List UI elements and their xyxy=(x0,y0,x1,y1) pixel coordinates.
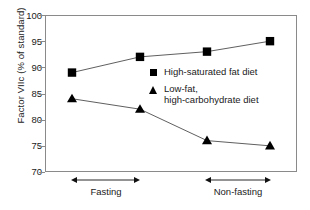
group-span-arrowhead xyxy=(265,177,271,183)
legend-item-label: High-saturated fat diet xyxy=(160,66,257,78)
data-point-square xyxy=(68,68,76,76)
square-marker-icon xyxy=(146,66,160,76)
data-point-square xyxy=(136,53,144,61)
legend-item-label-line1: Low-fat, xyxy=(164,83,198,94)
data-point-square xyxy=(203,47,211,55)
group-span-arrowhead xyxy=(134,177,140,183)
data-point-square xyxy=(266,37,274,45)
group-label-fasting: Fasting xyxy=(61,186,151,197)
chart-legend: High-saturated fat diet Low-fat,high-car… xyxy=(146,66,259,111)
legend-item-label: Low-fat,high-carbohydrate diet xyxy=(160,83,259,106)
legend-item-label-line1: High-saturated fat diet xyxy=(164,66,257,77)
legend-item: Low-fat,high-carbohydrate diet xyxy=(146,83,259,106)
legend-item-label-line2: high-carbohydrate diet xyxy=(164,94,259,105)
triangle-marker-icon xyxy=(146,83,160,94)
figure-caption-clipped xyxy=(8,205,302,210)
group-arrows xyxy=(71,177,271,183)
data-point-triangle xyxy=(67,94,77,103)
chart-figure: Factor VIIc (% of standard) 100 95 90 85… xyxy=(0,0,310,210)
group-label-non-fasting: Non-fasting xyxy=(193,186,283,197)
group-span-arrowhead xyxy=(71,177,77,183)
data-point-triangle xyxy=(202,136,212,145)
legend-item: High-saturated fat diet xyxy=(146,66,259,78)
group-span-arrowhead xyxy=(205,177,211,183)
